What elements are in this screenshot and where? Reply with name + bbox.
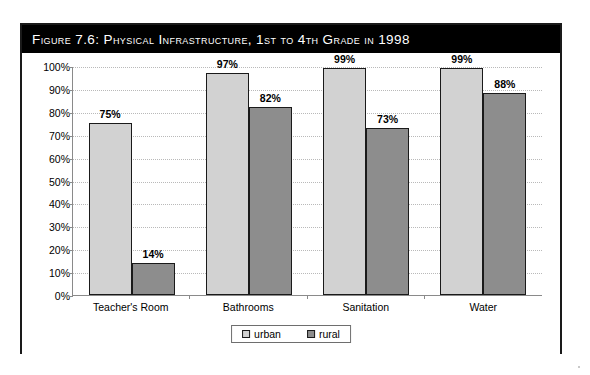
bar-group: 75%14% (73, 67, 190, 295)
y-axis-tick-label: 50% (49, 176, 70, 188)
y-axis-tick-label: 40% (49, 198, 70, 210)
bar-rural[interactable]: 82% (249, 107, 292, 295)
y-axis-tick-label: 10% (49, 267, 70, 279)
x-axis-category-label: Sanitation (307, 301, 425, 319)
bar-groups: 75%14%97%82%99%73%99%88% (73, 67, 542, 295)
x-axis-tick (307, 295, 308, 299)
y-axis-tick-label: 90% (49, 84, 70, 96)
bar-rural[interactable]: 73% (366, 128, 409, 295)
bar-urban[interactable]: 75% (89, 123, 132, 295)
bar-value-label: 73% (377, 113, 398, 125)
legend-item-urban[interactable]: urban (242, 328, 281, 340)
figure-title-bar: Figure 7.6: Physical Infrastructure, 1st… (22, 25, 560, 53)
figure-frame: Figure 7.6: Physical Infrastructure, 1st… (20, 23, 562, 354)
x-axis-tick (189, 295, 190, 299)
y-axis-tick-label: 0% (55, 290, 70, 302)
bar-urban[interactable]: 99% (323, 68, 366, 295)
bar-rural[interactable]: 88% (483, 93, 526, 295)
x-axis-category-label: Teacher's Room (72, 301, 190, 319)
legend-swatch-rural (307, 330, 315, 338)
legend-label: urban (254, 328, 281, 340)
chart-canvas: 100%90%80%70%60%50%40%30%20%10%0% 75%14%… (22, 53, 560, 354)
bar-urban[interactable]: 97% (206, 73, 249, 295)
legend-swatch-urban (242, 330, 250, 338)
x-axis-tick (424, 295, 425, 299)
legend-item-rural[interactable]: rural (307, 328, 340, 340)
y-axis-tick-label: 30% (49, 221, 70, 233)
y-axis-tick-label: 60% (49, 153, 70, 165)
y-axis-tick (69, 296, 73, 297)
bar-group: 97%82% (190, 67, 307, 295)
plot-area: 75%14%97%82%99%73%99%88% (72, 67, 542, 296)
chart-legend: urbanrural (231, 325, 351, 343)
bar-value-label: 97% (217, 58, 238, 70)
screenshot-root: Figure 7.6: Physical Infrastructure, 1st… (0, 0, 590, 375)
bar-value-label: 99% (451, 53, 472, 65)
bar-urban[interactable]: 99% (440, 68, 483, 295)
bar-value-label: 82% (260, 92, 281, 104)
x-axis-category-label: Bathrooms (190, 301, 308, 319)
legend-label: rural (319, 328, 340, 340)
y-axis-tick-label: 20% (49, 244, 70, 256)
bar-rural[interactable]: 14% (132, 263, 175, 295)
bar-group: 99%73% (308, 67, 425, 295)
bar-value-label: 14% (143, 248, 164, 260)
bar-group: 99%88% (425, 67, 542, 295)
bar-value-label: 99% (334, 53, 355, 65)
y-axis-tick-label: 80% (49, 107, 70, 119)
scan-speck (578, 366, 580, 368)
y-axis-tick-label: 100% (43, 61, 70, 73)
x-axis-category-label: Water (425, 301, 543, 319)
x-axis-labels: Teacher's RoomBathroomsSanitationWater (72, 301, 542, 319)
bar-value-label: 88% (494, 78, 515, 90)
y-axis-labels: 100%90%80%70%60%50%40%30%20%10%0% (28, 67, 70, 296)
y-axis-tick-label: 70% (49, 130, 70, 142)
figure-title: Figure 7.6: Physical Infrastructure, 1st… (32, 32, 410, 47)
bar-value-label: 75% (100, 108, 121, 120)
